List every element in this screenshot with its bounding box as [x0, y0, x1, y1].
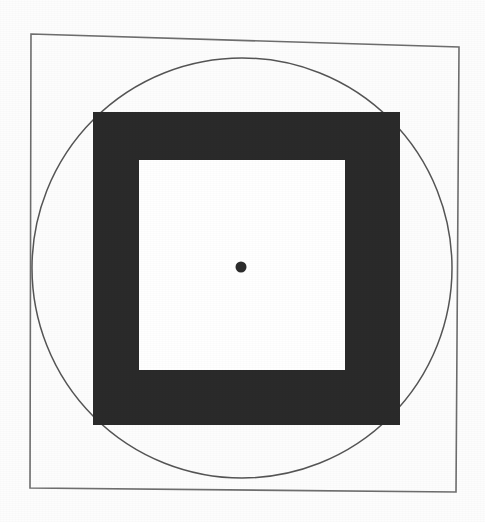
figure-canvas [0, 0, 485, 522]
center-dot [236, 262, 247, 273]
figure-svg [0, 0, 485, 522]
